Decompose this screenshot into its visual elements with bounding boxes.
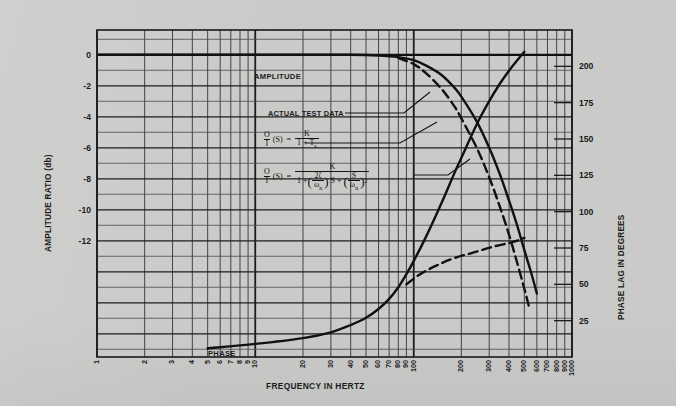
formula2-rhs-fraction: K 1 + ( 2ζ ωn ) S + ( S ωn ) 2: [295, 163, 369, 191]
x-tick-label: 70: [384, 360, 393, 368]
y-tick-label: -12: [79, 236, 92, 246]
y-axis-title: AMPLITUDE RATIO (db): [44, 154, 53, 252]
y2-tick-label: 125: [579, 170, 594, 180]
x-tick-label: 500: [519, 360, 528, 372]
y2-axis-tick-labels: 200175150125100755025: [579, 61, 594, 325]
x-tick-label: 60: [373, 360, 382, 368]
formula2-den-f2-den: ωn: [348, 180, 360, 191]
plot-area-background: [97, 30, 572, 357]
x-tick-label: 7: [226, 360, 235, 364]
x-tick-label: 1: [92, 360, 101, 364]
y2-tick-label: 50: [579, 279, 589, 289]
y-axis-tick-labels: 0-2-4-6-8-10-12: [79, 50, 92, 246]
y2-tick-label: 150: [579, 134, 594, 144]
grid-lines: [97, 30, 572, 357]
formula2-den-f1-den: ωn: [312, 180, 324, 191]
x-axis-tick-labels: 1234567891020304050607080901002003004005…: [92, 360, 576, 376]
y2-axis-title: PHASE LAG IN DEGREES: [617, 214, 626, 320]
amplitude-curve-label: AMPLITUDE: [254, 72, 301, 81]
formula1-rhs-den-sub: s: [314, 143, 316, 149]
formula2-lhs-arg: (S): [273, 172, 283, 181]
formula2-den-s-term: S +: [331, 177, 342, 185]
x-tick-label: 10: [250, 360, 259, 368]
y-tick-label: -2: [83, 81, 91, 91]
x-tick-label: 2: [140, 360, 149, 364]
formula2-den-f1-num: 2ζ: [312, 172, 323, 180]
formula1-rhs-den-text: 1 + T: [297, 138, 314, 147]
actual-test-data-label: ACTUAL TEST DATA: [268, 109, 344, 118]
y2-tick-label: 100: [579, 207, 594, 217]
formula2-lhs-numerator: O: [262, 168, 272, 176]
y2-tick-label: 175: [579, 98, 594, 108]
y-tick-label: -6: [83, 143, 91, 153]
y2-tick-label: 200: [579, 61, 594, 71]
formula2-equals: =: [287, 172, 292, 181]
curve-phase-actual-test-data: [406, 238, 524, 284]
x-tick-label: 100: [409, 360, 418, 372]
formula2-den-exponent: 2: [364, 178, 367, 184]
data-curves: [97, 52, 537, 348]
x-tick-label: 300: [484, 360, 493, 372]
plot-frame: [97, 30, 572, 357]
formula1-equals: =: [287, 135, 292, 144]
y-tick-label: -8: [83, 174, 91, 184]
formula2-den-f1-den-sub: n: [319, 185, 322, 191]
formula-second-order: O I (S) = K 1 + ( 2ζ ωn ) S + ( S ωn ): [262, 163, 369, 191]
x-tick-label: 1000: [567, 360, 576, 376]
formula2-den-fraction-2: S ωn: [348, 172, 360, 191]
formula1-rhs-denominator: 1 + Ts: [295, 138, 319, 149]
x-tick-label: 3: [167, 360, 176, 364]
formula2-den-f2-num: S: [350, 172, 358, 180]
phase-curve-label: PHASE: [208, 349, 236, 358]
x-tick-label: 600: [532, 360, 541, 372]
formula2-den-fraction-1: 2ζ ωn: [312, 172, 324, 191]
formula2-den-one: 1 +: [297, 177, 308, 185]
formula-first-order: O I (S) = K 1 + Ts: [262, 130, 319, 149]
x-tick-label: 5: [203, 360, 212, 364]
x-axis-title: FREQUENCY IN HERTZ: [266, 381, 365, 391]
formula1-rhs-numerator: K: [302, 130, 312, 138]
formula1-lhs-numerator: O: [262, 131, 272, 139]
x-tick-label: 200: [456, 360, 465, 372]
formula2-paren-close-1: ): [324, 175, 328, 188]
formula2-lhs-fraction: O I: [262, 168, 272, 185]
leader-actual-test-data: [345, 92, 430, 113]
x-tick-label: 20: [298, 360, 307, 368]
formula2-rhs-numerator: K: [327, 163, 337, 171]
y-tick-label: -4: [83, 112, 91, 122]
y2-tick-label: 25: [579, 316, 589, 326]
formula1-lhs-fraction: O I: [262, 131, 272, 148]
formula1-rhs-fraction: K 1 + Ts: [295, 130, 319, 149]
chart-page: 1234567891020304050607080901002003004005…: [0, 0, 676, 406]
x-tick-label: 50: [361, 360, 370, 368]
y-tick-label: -10: [79, 205, 92, 215]
x-tick-label: 700: [542, 360, 551, 372]
formula1-lhs-denominator: I: [264, 139, 271, 148]
x-tick-label: 4: [187, 360, 196, 364]
y-tick-label: 0: [86, 50, 91, 60]
x-tick-label: 40: [346, 360, 355, 368]
y2-tick-label: 75: [579, 243, 589, 253]
x-tick-label: 400: [504, 360, 513, 372]
formula2-rhs-denominator: 1 + ( 2ζ ωn ) S + ( S ωn ) 2: [295, 171, 369, 191]
formula2-lhs-denominator: I: [264, 176, 271, 185]
x-tick-label: 30: [326, 360, 335, 368]
formula2-den-f2-den-sub: n: [355, 185, 358, 191]
x-tick-label: 6: [215, 360, 224, 364]
bode-plot-svg: 1234567891020304050607080901002003004005…: [0, 0, 676, 406]
formula1-lhs-arg: (S): [273, 135, 283, 144]
